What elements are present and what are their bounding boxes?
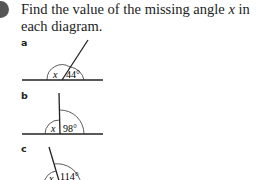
diagram-c: x 114° xyxy=(0,0,260,180)
angle-x-c: x xyxy=(48,173,54,180)
angle-known-c: 114° xyxy=(60,171,79,180)
